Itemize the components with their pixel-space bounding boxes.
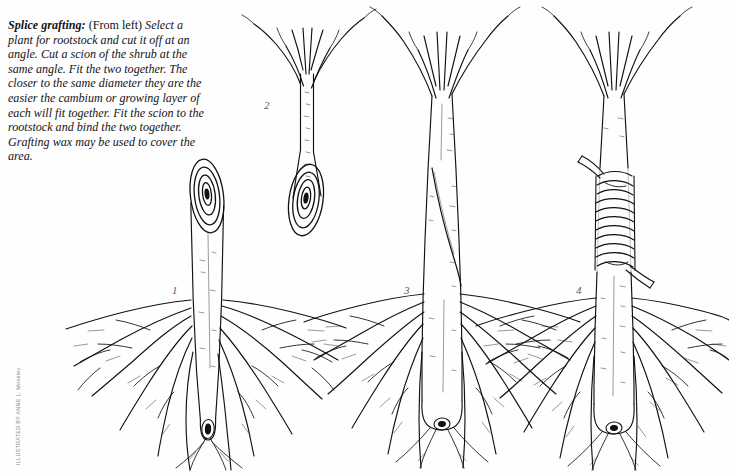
caption-body: Select a plant for rootstock and cut it … bbox=[8, 18, 204, 163]
figure-number-4: 4 bbox=[576, 284, 582, 296]
bark-texture-1 bbox=[199, 252, 216, 367]
caption-lead: Splice grafting: bbox=[8, 18, 86, 32]
grafting-tape-binding bbox=[578, 156, 654, 288]
cambium-rings-figure-1 bbox=[186, 157, 228, 234]
caption-block: Splice grafting: (From left) Select a pl… bbox=[8, 18, 204, 164]
figure-number-2: 2 bbox=[264, 99, 270, 111]
root-system-figure-3 bbox=[304, 294, 580, 468]
figure-4-bound-graft bbox=[476, 7, 729, 470]
illustration-page: Splice grafting: (From left) Select a pl… bbox=[0, 0, 729, 475]
figure-number-3: 3 bbox=[404, 284, 410, 296]
figure-1-rootstock bbox=[66, 157, 346, 470]
figure-number-1: 1 bbox=[172, 284, 178, 296]
cambium-rings-figure-2 bbox=[284, 162, 328, 238]
caption-roman: (From left) bbox=[89, 18, 142, 32]
bark-texture-4 bbox=[601, 118, 625, 383]
graft-union-line-figure-3 bbox=[432, 168, 461, 286]
figure-2-scion bbox=[242, 9, 376, 238]
bark-texture-2 bbox=[304, 92, 310, 177]
figure-3-fitted-graft bbox=[304, 7, 580, 468]
illustration-credit: ILLUSTRATED BY ANNE L. Moseley bbox=[15, 377, 21, 465]
bark-texture-3 bbox=[429, 118, 456, 371]
root-system-figure-1 bbox=[66, 300, 346, 470]
root-system-figure-4 bbox=[476, 298, 729, 470]
